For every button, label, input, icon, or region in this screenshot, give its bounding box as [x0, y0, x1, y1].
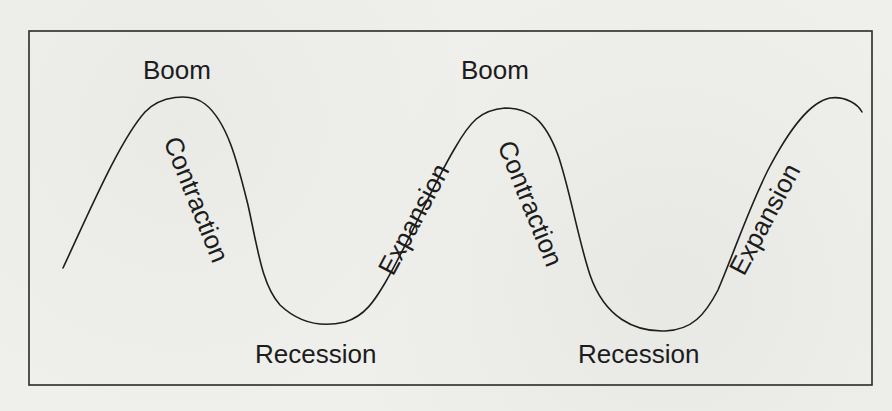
label-contraction-2: Contraction	[492, 136, 570, 271]
label-boom-1: Boom	[143, 55, 211, 85]
business-cycle-curve	[63, 97, 862, 331]
label-recession-2: Recession	[578, 339, 699, 369]
business-cycle-diagram: BoomContractionRecessionExpansionBoomCon…	[0, 0, 892, 411]
label-boom-2: Boom	[461, 55, 529, 85]
label-contraction-1: Contraction	[158, 132, 236, 267]
phase-labels: BoomContractionRecessionExpansionBoomCon…	[143, 55, 806, 369]
label-recession-1: Recession	[255, 339, 376, 369]
label-expansion-1: Expansion	[372, 159, 455, 280]
